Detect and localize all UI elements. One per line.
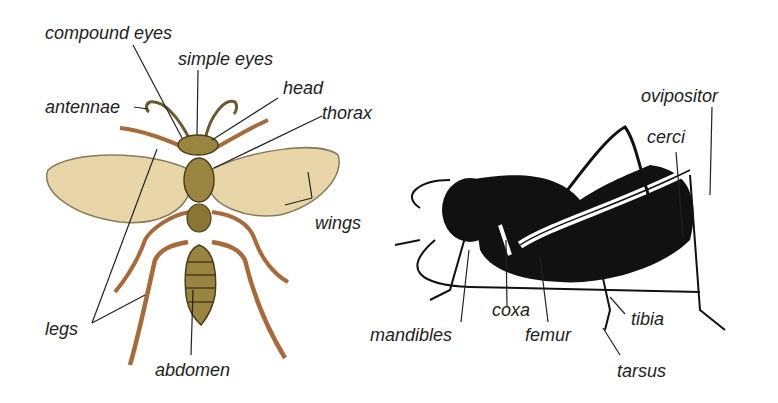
label-mandibles: mandibles xyxy=(370,326,452,344)
label-tarsus: tarsus xyxy=(617,362,666,380)
label-antennae: antennae xyxy=(45,98,120,116)
label-thorax: thorax xyxy=(322,104,372,122)
cricket-drawing xyxy=(395,127,725,330)
label-wings: wings xyxy=(315,214,361,232)
wasp-left-wing xyxy=(47,155,190,223)
label-abdomen: abdomen xyxy=(155,361,230,379)
label-femur: femur xyxy=(525,326,571,344)
label-coxa: coxa xyxy=(492,301,530,319)
label-cerci: cerci xyxy=(647,128,685,146)
label-compound-eyes: compound eyes xyxy=(45,24,172,42)
label-tibia: tibia xyxy=(631,310,664,328)
wasp-drawing xyxy=(47,101,339,365)
label-legs: legs xyxy=(45,320,78,338)
wasp-right-wing xyxy=(210,148,339,216)
label-simple-eyes: simple eyes xyxy=(178,50,273,68)
label-head: head xyxy=(283,79,323,97)
label-ovipositor: ovipositor xyxy=(641,87,718,105)
